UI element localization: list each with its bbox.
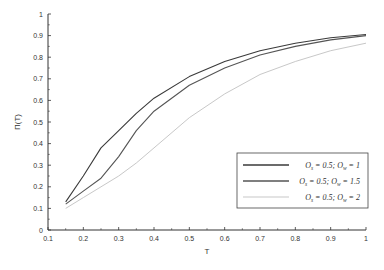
- y-tick-label: 0.6: [33, 97, 43, 104]
- y-tick-label: 0.3: [33, 162, 43, 169]
- x-axis-label: T: [205, 247, 210, 256]
- y-tick-label: 0.1: [33, 205, 43, 212]
- x-tick-label: 0.3: [114, 235, 124, 242]
- x-tick-label: 0.5: [184, 235, 194, 242]
- legend-label-3: Os = 0.5; Ow = 2: [305, 193, 360, 203]
- x-tick-label: 0.7: [255, 235, 265, 242]
- legend-label-1: Os = 0.5; Ow = 1: [305, 161, 360, 171]
- legend-label-2: Os = 0.5; Ow = 1.5: [299, 177, 360, 187]
- y-tick-label: 0.9: [33, 32, 43, 39]
- x-tick-label: 0.2: [78, 235, 88, 242]
- x-tick-label: 1: [364, 235, 368, 242]
- line-chart: 0.10.20.30.40.50.60.70.80.9100.10.20.30.…: [0, 0, 384, 270]
- legend: Os = 0.5; Ow = 1Os = 0.5; Ow = 1.5Os = 0…: [237, 153, 368, 208]
- x-tick-label: 0.1: [43, 235, 53, 242]
- y-tick-label: 0.4: [33, 140, 43, 147]
- y-tick-label: 1: [39, 11, 43, 18]
- x-tick-label: 0.9: [326, 235, 336, 242]
- x-tick-label: 0.8: [290, 235, 300, 242]
- y-tick-label: 0.5: [33, 119, 43, 126]
- y-tick-label: 0: [39, 227, 43, 234]
- y-tick-label: 0.8: [33, 54, 43, 61]
- x-tick-label: 0.6: [220, 235, 230, 242]
- x-tick-label: 0.4: [149, 235, 159, 242]
- y-tick-label: 0.7: [33, 75, 43, 82]
- y-tick-label: 0.2: [33, 183, 43, 190]
- y-axis-label: Π(T): [13, 114, 22, 130]
